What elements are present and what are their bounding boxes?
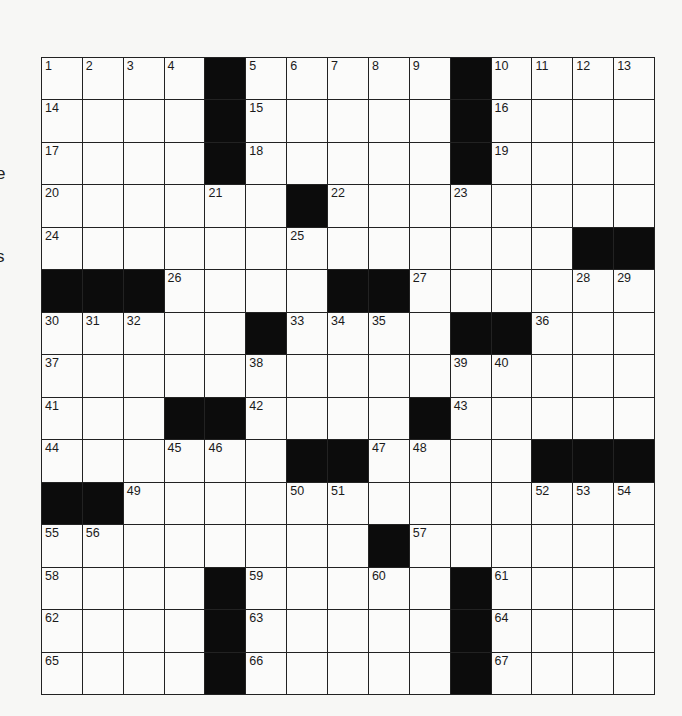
grid-cell[interactable]	[124, 355, 164, 396]
grid-cell[interactable]	[614, 100, 654, 141]
grid-cell[interactable]	[532, 228, 572, 269]
grid-cell[interactable]	[287, 568, 327, 609]
grid-cell[interactable]: 50	[287, 483, 327, 524]
grid-cell[interactable]: 57	[410, 525, 450, 566]
grid-cell[interactable]: 15	[246, 100, 286, 141]
grid-cell[interactable]	[369, 610, 409, 651]
grid-cell[interactable]	[124, 100, 164, 141]
grid-cell[interactable]	[369, 398, 409, 439]
grid-cell[interactable]: 8	[369, 58, 409, 99]
grid-cell[interactable]: 35	[369, 313, 409, 354]
grid-cell[interactable]: 12	[573, 58, 613, 99]
grid-cell[interactable]	[532, 568, 572, 609]
grid-cell[interactable]: 32	[124, 313, 164, 354]
grid-cell[interactable]	[451, 483, 491, 524]
grid-cell[interactable]: 34	[328, 313, 368, 354]
grid-cell[interactable]	[328, 568, 368, 609]
grid-cell[interactable]	[492, 525, 532, 566]
grid-cell[interactable]: 46	[205, 440, 245, 481]
grid-cell[interactable]	[83, 228, 123, 269]
grid-cell[interactable]	[124, 440, 164, 481]
grid-cell[interactable]: 21	[205, 185, 245, 226]
grid-cell[interactable]: 18	[246, 143, 286, 184]
grid-cell[interactable]	[410, 100, 450, 141]
grid-cell[interactable]	[410, 185, 450, 226]
grid-cell[interactable]: 47	[369, 440, 409, 481]
grid-cell[interactable]	[492, 483, 532, 524]
grid-cell[interactable]	[124, 610, 164, 651]
grid-cell[interactable]: 24	[42, 228, 82, 269]
grid-cell[interactable]: 67	[492, 653, 532, 694]
grid-cell[interactable]	[573, 610, 613, 651]
grid-cell[interactable]: 58	[42, 568, 82, 609]
grid-cell[interactable]	[246, 185, 286, 226]
grid-cell[interactable]	[124, 143, 164, 184]
grid-cell[interactable]: 22	[328, 185, 368, 226]
grid-cell[interactable]	[573, 398, 613, 439]
grid-cell[interactable]: 60	[369, 568, 409, 609]
grid-cell[interactable]	[205, 313, 245, 354]
grid-cell[interactable]	[451, 440, 491, 481]
grid-cell[interactable]	[492, 270, 532, 311]
grid-cell[interactable]	[369, 100, 409, 141]
grid-cell[interactable]: 55	[42, 525, 82, 566]
grid-cell[interactable]	[614, 185, 654, 226]
grid-cell[interactable]: 59	[246, 568, 286, 609]
grid-cell[interactable]	[328, 228, 368, 269]
grid-cell[interactable]	[492, 185, 532, 226]
grid-cell[interactable]: 11	[532, 58, 572, 99]
grid-cell[interactable]	[614, 610, 654, 651]
grid-cell[interactable]	[83, 185, 123, 226]
grid-cell[interactable]	[124, 653, 164, 694]
grid-cell[interactable]: 26	[165, 270, 205, 311]
grid-cell[interactable]	[369, 355, 409, 396]
grid-cell[interactable]	[328, 355, 368, 396]
grid-cell[interactable]	[83, 568, 123, 609]
grid-cell[interactable]: 66	[246, 653, 286, 694]
grid-cell[interactable]	[492, 440, 532, 481]
grid-cell[interactable]	[205, 270, 245, 311]
grid-cell[interactable]	[205, 228, 245, 269]
grid-cell[interactable]	[83, 440, 123, 481]
grid-cell[interactable]	[165, 228, 205, 269]
grid-cell[interactable]: 61	[492, 568, 532, 609]
grid-cell[interactable]: 51	[328, 483, 368, 524]
grid-cell[interactable]	[492, 398, 532, 439]
grid-cell[interactable]	[205, 483, 245, 524]
grid-cell[interactable]	[369, 143, 409, 184]
grid-cell[interactable]: 43	[451, 398, 491, 439]
grid-cell[interactable]: 63	[246, 610, 286, 651]
grid-cell[interactable]	[532, 653, 572, 694]
grid-cell[interactable]: 27	[410, 270, 450, 311]
grid-cell[interactable]: 62	[42, 610, 82, 651]
grid-cell[interactable]	[532, 143, 572, 184]
grid-cell[interactable]	[246, 270, 286, 311]
grid-cell[interactable]: 16	[492, 100, 532, 141]
grid-cell[interactable]	[614, 355, 654, 396]
grid-cell[interactable]	[83, 610, 123, 651]
grid-cell[interactable]	[287, 653, 327, 694]
grid-cell[interactable]: 44	[42, 440, 82, 481]
grid-cell[interactable]	[165, 525, 205, 566]
grid-cell[interactable]	[451, 525, 491, 566]
grid-cell[interactable]: 30	[42, 313, 82, 354]
grid-cell[interactable]: 36	[532, 313, 572, 354]
grid-cell[interactable]	[287, 398, 327, 439]
grid-cell[interactable]	[165, 313, 205, 354]
grid-cell[interactable]: 19	[492, 143, 532, 184]
grid-cell[interactable]: 7	[328, 58, 368, 99]
grid-cell[interactable]	[614, 398, 654, 439]
grid-cell[interactable]	[614, 568, 654, 609]
grid-cell[interactable]	[328, 398, 368, 439]
grid-cell[interactable]: 56	[83, 525, 123, 566]
grid-cell[interactable]: 25	[287, 228, 327, 269]
grid-cell[interactable]	[410, 355, 450, 396]
grid-cell[interactable]: 6	[287, 58, 327, 99]
grid-cell[interactable]	[165, 568, 205, 609]
grid-cell[interactable]	[287, 525, 327, 566]
grid-cell[interactable]	[165, 143, 205, 184]
grid-cell[interactable]	[614, 143, 654, 184]
grid-cell[interactable]: 48	[410, 440, 450, 481]
grid-cell[interactable]: 40	[492, 355, 532, 396]
grid-cell[interactable]	[124, 568, 164, 609]
